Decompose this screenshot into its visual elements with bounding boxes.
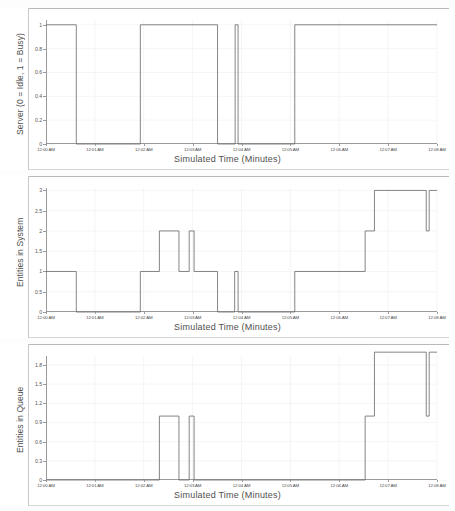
y-tick-label: 0.6	[20, 69, 42, 75]
x-tick-label: 12:08 AM	[428, 147, 445, 152]
x-axis-label: Simulated Time (Minutes)	[0, 322, 455, 332]
y-tick-label: 2.5	[20, 208, 42, 214]
x-tick-mark	[339, 144, 340, 146]
x-tick-mark	[46, 312, 47, 314]
y-tick-mark	[43, 96, 46, 97]
y-tick-mark	[43, 442, 46, 443]
panel-frame-top	[28, 344, 449, 345]
y-tick-mark	[43, 271, 46, 272]
x-tick-mark	[290, 312, 291, 314]
x-tick-mark	[193, 144, 194, 146]
y-tick-mark	[43, 120, 46, 121]
y-tick-mark	[43, 231, 46, 232]
x-axis-label: Simulated Time (Minutes)	[0, 154, 455, 164]
y-tick-mark	[43, 292, 46, 293]
x-tick-mark	[242, 144, 243, 146]
x-tick-mark	[46, 144, 47, 146]
x-tick-label: 12:02 AM	[135, 315, 152, 320]
y-tick-label: 2	[20, 228, 42, 234]
y-tick-label: 1.5	[20, 381, 42, 387]
x-tick-mark	[144, 480, 145, 482]
y-tick-mark	[43, 49, 46, 50]
panel-frame-bottom	[28, 505, 449, 506]
x-tick-mark	[339, 480, 340, 482]
x-tick-label: 12:07 AM	[379, 483, 396, 488]
y-tick-label: 0.8	[20, 46, 42, 52]
x-tick-mark	[242, 480, 243, 482]
x-tick-mark	[339, 312, 340, 314]
x-tick-mark	[290, 480, 291, 482]
y-tick-label: 3	[20, 187, 42, 193]
x-tick-mark	[144, 312, 145, 314]
x-tick-label: 12:05 AM	[282, 315, 299, 320]
panel-frame-top	[28, 176, 449, 177]
x-tick-label: 12:00 AM	[37, 147, 54, 152]
y-tick-mark	[43, 422, 46, 423]
x-tick-label: 12:06 AM	[331, 315, 348, 320]
x-tick-mark	[388, 312, 389, 314]
plot-area-server-utilization	[46, 20, 437, 144]
panel-frame-top	[28, 8, 449, 9]
x-tick-label: 12:01 AM	[86, 147, 103, 152]
y-tick-mark	[43, 384, 46, 385]
x-tick-label: 12:03 AM	[184, 483, 201, 488]
y-tick-mark	[43, 403, 46, 404]
x-tick-label: 12:03 AM	[184, 315, 201, 320]
x-tick-mark	[290, 144, 291, 146]
x-tick-label: 12:00 AM	[37, 483, 54, 488]
x-tick-label: 12:02 AM	[135, 483, 152, 488]
chart-svg-server-utilization	[46, 20, 437, 144]
y-axis-label: Server (0 = Idle, 1 = Busy)	[15, 22, 25, 146]
y-tick-label: 1.8	[20, 362, 42, 368]
y-tick-label: 0.6	[20, 439, 42, 445]
x-tick-label: 12:01 AM	[86, 483, 103, 488]
x-tick-label: 12:05 AM	[282, 147, 299, 152]
x-tick-mark	[193, 480, 194, 482]
x-tick-mark	[95, 480, 96, 482]
x-tick-label: 12:04 AM	[233, 315, 250, 320]
y-tick-mark	[43, 365, 46, 366]
y-tick-label: 0.4	[20, 93, 42, 99]
y-tick-label: 1.5	[20, 248, 42, 254]
x-tick-label: 12:07 AM	[379, 315, 396, 320]
simulation-plots-figure: Server (0 = Idle, 1 = Busy) Simulated Ti…	[0, 0, 455, 511]
x-tick-mark	[388, 144, 389, 146]
chart-svg-entities-in-queue	[46, 356, 437, 480]
x-tick-mark	[144, 144, 145, 146]
y-tick-mark	[43, 211, 46, 212]
plot-area-entities-in-system	[46, 188, 437, 312]
y-tick-label: 0.2	[20, 117, 42, 123]
x-tick-label: 12:01 AM	[86, 315, 103, 320]
x-tick-mark	[242, 312, 243, 314]
y-tick-mark	[43, 251, 46, 252]
chart-panel-entities-in-system: Entities in System Simulated Time (Minut…	[0, 176, 455, 338]
panel-frame-bottom	[28, 337, 449, 338]
x-tick-label: 12:05 AM	[282, 483, 299, 488]
y-tick-mark	[43, 25, 46, 26]
x-tick-label: 12:02 AM	[135, 147, 152, 152]
y-tick-label: 0.9	[20, 419, 42, 425]
x-tick-mark	[437, 480, 438, 482]
y-tick-label: 1.2	[20, 400, 42, 406]
x-tick-mark	[95, 144, 96, 146]
x-tick-mark	[437, 144, 438, 146]
chart-panel-entities-in-queue: Entities in Queue Simulated Time (Minute…	[0, 344, 455, 506]
x-tick-mark	[437, 312, 438, 314]
chart-panel-server-utilization: Server (0 = Idle, 1 = Busy) Simulated Ti…	[0, 8, 455, 170]
y-tick-label: 1	[20, 22, 42, 28]
x-tick-label: 12:08 AM	[428, 483, 445, 488]
x-tick-mark	[95, 312, 96, 314]
x-tick-mark	[388, 480, 389, 482]
y-tick-label: 0.5	[20, 289, 42, 295]
x-tick-label: 12:07 AM	[379, 147, 396, 152]
chart-svg-entities-in-system	[46, 188, 437, 312]
x-tick-label: 12:06 AM	[331, 147, 348, 152]
x-tick-label: 12:04 AM	[233, 483, 250, 488]
x-tick-mark	[193, 312, 194, 314]
y-tick-label: 1	[20, 268, 42, 274]
plot-area-entities-in-queue	[46, 356, 437, 480]
x-axis-label: Simulated Time (Minutes)	[0, 490, 455, 500]
y-tick-mark	[43, 461, 46, 462]
y-tick-mark	[43, 72, 46, 73]
y-tick-label: 0.3	[20, 458, 42, 464]
